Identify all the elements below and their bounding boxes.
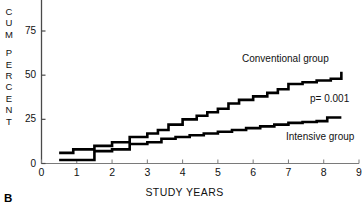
x-tick-label-7: 7 [281,166,295,178]
y-tick-label-50: 50 [14,69,36,80]
y-axis-label-char: C [2,81,16,92]
y-tick-label-0: 0 [14,158,36,169]
panel-letter: B [4,192,12,204]
y-axis-label-char: E [2,93,16,104]
y-axis-label-char: P [2,47,16,58]
x-axis-label-text: STUDY YEARS [145,186,223,198]
plot-area [0,0,363,213]
x-tick-label-5: 5 [211,166,225,178]
x-tick-label-8: 8 [317,166,331,178]
series-annotation-intensive: Intensive group [286,131,354,142]
x-tick-label-2: 2 [105,166,119,178]
y-axis-label-gap [2,40,16,47]
x-tick-label-4: 4 [176,166,190,178]
x-tick-label-1: 1 [70,166,84,178]
x-tick-label-9: 9 [352,166,363,178]
chart-figure: C U M P E R C E N T 75 50 25 0 0 1 2 3 4… [0,0,363,213]
pvalue-annotation: p= 0.001 [310,93,349,104]
x-tick-label-3: 3 [140,166,154,178]
y-axis-label-char: C [2,6,16,17]
y-tick-label-75: 75 [14,25,36,36]
series-annotation-conventional: Conventional group [242,53,329,64]
x-axis-label: STUDY YEARS [0,186,363,198]
x-tick-label-6: 6 [246,166,260,178]
y-tick-label-25: 25 [14,113,36,124]
x-tick-label-0: 0 [35,166,49,178]
